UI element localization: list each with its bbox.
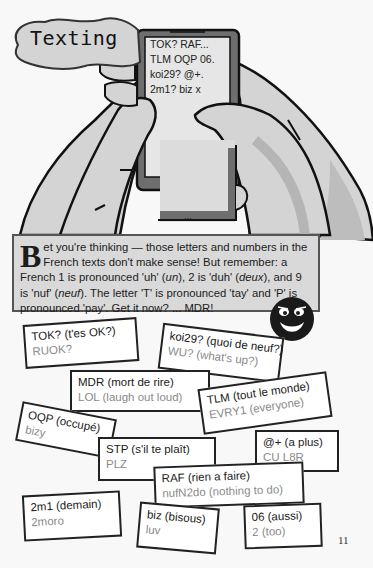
info-italic: neuf — [58, 287, 80, 299]
drop-cap: B — [20, 242, 41, 270]
abbreviation-card: TOK? (t'es OK?) RUOK? — [23, 317, 140, 369]
info-text: ), 2 is 'duh' ( — [178, 271, 239, 283]
card-english: 2moro — [31, 511, 114, 530]
info-italic: deux — [239, 271, 264, 283]
screen-line: TOK? RAF... — [150, 37, 230, 52]
screen-line: 2m1? biz x — [150, 82, 230, 97]
abbreviation-card: MDR (mort de rire) LOL (laugh out loud) — [70, 370, 210, 412]
page-number: 11 — [338, 534, 349, 546]
phone-screen-text: TOK? RAF... TLM OQP 06. koi29? @+. 2m1? … — [150, 37, 230, 97]
card-english: 2 (too) — [252, 523, 314, 540]
page-title: Texting — [30, 26, 118, 50]
info-italic: un — [166, 271, 179, 283]
svg-text:...: ... — [184, 212, 192, 221]
book-page: ... Texting TOK? RAF... TLM OQP 06. koi2… — [0, 0, 373, 568]
abbreviation-card: biz (bisous) luv — [136, 502, 220, 555]
screen-line: koi29? @+. — [150, 67, 230, 82]
card-french: STP (s'il te plaît) — [106, 442, 208, 457]
card-english: LOL (laugh out loud) — [78, 390, 202, 405]
card-english: nufN2do (nothing to do) — [162, 482, 296, 502]
screen-line: TLM OQP 06. — [150, 52, 230, 67]
card-french: MDR (mort de rire) — [78, 375, 202, 390]
abbreviation-card: 2m1 (demain) 2moro — [22, 490, 122, 541]
abbreviation-card: TLM (tout le monde) EVRY1 (everyone) — [197, 371, 332, 435]
abbreviation-card: 06 (aussi) 2 (too) — [243, 503, 322, 550]
abbreviation-card: RAF (rien a faire) nufN2do (nothing to d… — [153, 461, 304, 508]
card-french: @+ (a plus) — [263, 435, 331, 450]
